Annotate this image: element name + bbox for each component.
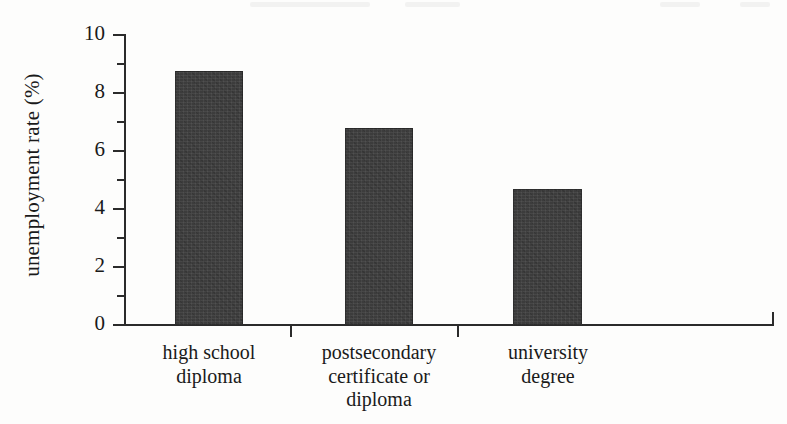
y-tick-7 <box>117 121 126 123</box>
y-tick-label-0: 0 <box>65 313 105 334</box>
y-tick-0 <box>113 324 126 326</box>
bar-high-school-diploma <box>175 71 243 325</box>
x-tick-boundary-1 <box>290 326 292 337</box>
x-category-label-line-1: postsecondary <box>298 341 460 365</box>
x-category-label-line-1: high school <box>129 341 289 365</box>
x-axis-end-cap <box>772 312 774 326</box>
x-category-label-line-2: certificate or <box>298 365 460 389</box>
y-tick-1 <box>117 295 126 297</box>
y-tick-label-8: 8 <box>65 81 105 102</box>
y-tick-label-10: 10 <box>65 23 105 44</box>
y-tick-label-2: 2 <box>65 255 105 276</box>
y-tick-3 <box>117 237 126 239</box>
y-tick-8 <box>113 92 126 94</box>
x-category-label-high-school-diploma: high school diploma <box>129 341 289 388</box>
x-tick-boundary-2 <box>457 326 459 337</box>
plot-area: 10 8 6 4 2 0 high school diploma <box>0 0 787 424</box>
chart-figure: unemployment rate (%) 10 8 6 4 2 <box>0 0 787 424</box>
x-category-label-line-2: degree <box>468 365 628 389</box>
bar-university-degree <box>513 189 582 325</box>
y-tick-4 <box>113 208 126 210</box>
y-tick-label-6: 6 <box>65 139 105 160</box>
y-tick-5 <box>117 179 126 181</box>
y-tick-9 <box>117 63 126 65</box>
x-category-label-line-1: university <box>468 341 628 365</box>
bar-postsecondary-certificate-or-diploma <box>345 128 413 325</box>
x-category-label-line-2: diploma <box>129 365 289 389</box>
y-tick-label-4: 4 <box>65 197 105 218</box>
x-category-label-university-degree: university degree <box>468 341 628 388</box>
y-tick-6 <box>113 150 126 152</box>
y-tick-10 <box>113 34 126 36</box>
x-category-label-line-3: diploma <box>298 388 460 412</box>
y-tick-2 <box>113 266 126 268</box>
x-category-label-postsecondary-certificate-or-diploma: postsecondary certificate or diploma <box>298 341 460 412</box>
